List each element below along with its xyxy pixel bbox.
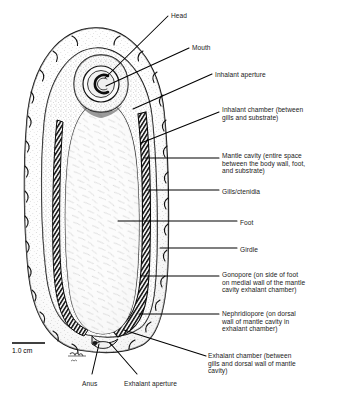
label-gonopore: Gonopore (on side of foot on medial wall… — [222, 271, 305, 294]
label-mouth: Mouth — [192, 44, 211, 52]
chiton-ventral-diagram — [0, 0, 353, 406]
label-head: Head — [171, 12, 187, 20]
label-exhalant-chamber: Exhalant chamber (between gills and dors… — [208, 352, 296, 375]
label-exhalant-aperture: Exhalant aperture — [124, 380, 177, 388]
label-mantle-cavity: Mantle cavity (entire space between the … — [222, 152, 305, 175]
foot-shape — [65, 102, 139, 334]
label-gills-ctenidia: Gills/ctenidia — [222, 188, 260, 196]
label-girdle: Girdle — [240, 246, 258, 254]
label-inhalant-aperture: Inhalant aperture — [215, 71, 266, 79]
label-inhalant-chamber: Inhalant chamber (between gills and subs… — [222, 106, 303, 121]
label-foot: Foot — [240, 219, 253, 227]
label-anus: Anus — [82, 380, 97, 388]
scale-bar-label: 1.0 cm — [12, 347, 32, 355]
anus-shape — [92, 341, 97, 345]
label-nephridiopore: Nephridiopore (on dorsal wall of mantle … — [222, 310, 296, 333]
figure-canvas: 1.0 cm Head Mouth Inhalant aperture Inha… — [0, 0, 353, 406]
